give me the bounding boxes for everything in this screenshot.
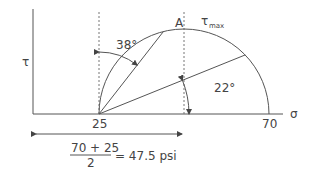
mohr-circle-diagram: τ σ 38° 22° A τ max 25 70 70 + 25 2 = 47…	[0, 0, 315, 169]
tick-label-25: 25	[92, 117, 107, 131]
tick-label-70: 70	[262, 117, 277, 131]
formula-result: = 47.5 psi	[115, 149, 177, 163]
angle-label-38: 38°	[116, 38, 137, 52]
tau-axis-label: τ	[22, 55, 29, 69]
angle-arc-22	[182, 80, 189, 114]
angle-label-22: 22°	[214, 81, 235, 95]
angle-arc-38	[99, 52, 137, 65]
tau-max-subscript: max	[209, 22, 224, 30]
sigma-axis-label: σ	[290, 107, 298, 121]
point-a-label: A	[175, 16, 184, 30]
tau-max-label: τ	[201, 14, 208, 28]
formula-denominator: 2	[87, 156, 95, 169]
formula-numerator: 70 + 25	[71, 141, 119, 155]
